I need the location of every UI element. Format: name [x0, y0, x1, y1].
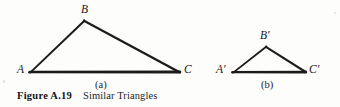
vertex-label-B: B	[81, 4, 88, 16]
scan-speck	[334, 12, 336, 14]
figure-caption-number: Figure A.19	[17, 90, 72, 101]
triangle-abc-strokes	[28, 19, 181, 73]
figure-caption-title: Similar Triangles	[83, 90, 157, 101]
panel-label-a: (a)	[95, 80, 107, 91]
figure-container: A B C A′ B′ C′ (a) (b) Figure A.19 Simil…	[0, 0, 340, 107]
vertex-label-B-prime: B′	[260, 30, 270, 42]
scan-speck	[3, 80, 5, 83]
vertex-label-C-prime: C′	[309, 64, 319, 76]
vertex-label-A-prime: A′	[216, 64, 226, 76]
vertex-label-A: A	[17, 64, 24, 76]
panel-label-b: (b)	[261, 80, 273, 91]
triangle-a-prime-b-prime-c-prime-strokes	[231, 45, 307, 73]
figure-caption: Figure A.19 Similar Triangles	[17, 90, 157, 101]
vertex-label-C: C	[184, 64, 192, 76]
